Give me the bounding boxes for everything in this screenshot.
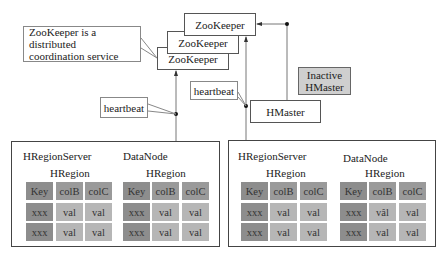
callout-line-1: ZooKeeper is a distributed [29, 26, 140, 50]
value-cell: val [85, 223, 112, 241]
value-cell: val [85, 203, 112, 221]
header-cell: colC [399, 182, 426, 200]
hregion-label: HRegion [266, 167, 306, 179]
value-cell: val [300, 203, 327, 221]
header-cell: colC [182, 182, 209, 200]
key-cell: xxx [123, 203, 150, 221]
hregion-label: HRegion [50, 167, 90, 179]
value-cell: val [300, 223, 327, 241]
header-cell: colB [152, 182, 179, 200]
hmaster-label: HMaster [305, 81, 344, 93]
zookeeper-label: ZooKeeper [195, 19, 244, 31]
zookeeper-callout: ZooKeeper is a distributed coordination … [23, 26, 141, 62]
header-cell: colB [56, 182, 83, 200]
hregionserver-label: HRegionServer [238, 150, 306, 162]
key-cell: xxx [241, 203, 268, 221]
datanode-label: DataNode [343, 152, 388, 164]
key-cell: xxx [340, 203, 367, 221]
key-cell: xxx [26, 223, 53, 241]
value-cell: vâl [369, 203, 396, 221]
callout-line-2: coordination service [29, 50, 140, 62]
value-cell: val [56, 203, 83, 221]
value-cell: val [399, 223, 426, 241]
inactive-hmaster-box: Inactive HMaster [298, 67, 351, 95]
header-cell: Key [241, 182, 268, 200]
header-cell: Key [123, 182, 150, 200]
heartbeat-label-right: heartbeat [190, 81, 238, 100]
header-cell: colB [369, 182, 396, 200]
value-cell: val [152, 203, 179, 221]
zookeeper-label: ZooKeeper [178, 37, 227, 49]
header-cell: Key [26, 182, 53, 200]
value-cell: val [270, 223, 297, 241]
header-cell: colC [85, 182, 112, 200]
header-cell: colB [270, 182, 297, 200]
value-cell: val [399, 203, 426, 221]
heartbeat-text: heartbeat [104, 102, 144, 114]
inactive-label: Inactive [307, 69, 342, 81]
hregion-label: HRegion [365, 167, 405, 179]
key-cell: xxx [123, 223, 150, 241]
hmaster-box: HMaster [250, 100, 321, 123]
value-cell: val [152, 223, 179, 241]
heartbeat-text: heartbeat [194, 85, 234, 97]
key-cell: xxx [26, 203, 53, 221]
zookeeper-node-3: ZooKeeper [184, 13, 256, 36]
value-cell: val [270, 203, 297, 221]
value-cell: val [56, 223, 83, 241]
datanode-label: DataNode [123, 150, 168, 162]
header-cell: Key [340, 182, 367, 200]
header-cell: colC [300, 182, 327, 200]
hregionserver-label: HRegionServer [23, 150, 91, 162]
value-cell: val [182, 203, 209, 221]
value-cell: val [369, 223, 396, 241]
heartbeat-label-left: heartbeat [100, 97, 148, 118]
key-cell: xxx [241, 223, 268, 241]
hmaster-label: HMaster [266, 106, 305, 118]
hregion-label: HRegion [146, 167, 186, 179]
zookeeper-label: ZooKeeper [168, 53, 217, 65]
key-cell: xxx [340, 223, 367, 241]
value-cell: val [182, 223, 209, 241]
